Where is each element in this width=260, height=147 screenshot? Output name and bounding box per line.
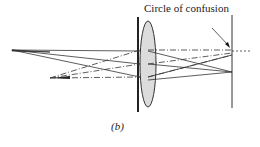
object-rays xyxy=(12,50,232,80)
figure-caption: (b) xyxy=(111,120,124,132)
annotation-arrow xyxy=(212,28,230,48)
circle-of-confusion-label: Circle of confusion xyxy=(144,2,229,14)
lens-ray-diagram xyxy=(0,0,260,147)
